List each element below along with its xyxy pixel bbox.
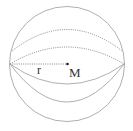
upper-hidden-arc-2 <box>10 47 124 64</box>
lower-arc-1 <box>10 64 124 84</box>
center-label: M <box>69 66 81 79</box>
radius-label: r <box>37 64 41 76</box>
sphere-drawing <box>0 0 133 131</box>
upper-hidden-arc-1 <box>12 30 122 52</box>
lower-arc-2 <box>10 64 124 102</box>
